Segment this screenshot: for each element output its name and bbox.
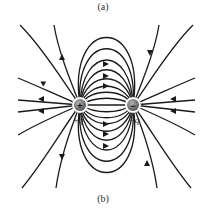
negative-charge: − −q bbox=[125, 97, 141, 125]
field-lines bbox=[18, 25, 195, 188]
caption-b: (b) bbox=[0, 193, 206, 204]
negative-charge-label: −q bbox=[129, 115, 140, 125]
positive-charge: + +q bbox=[72, 97, 88, 125]
negative-symbol: − bbox=[130, 101, 135, 111]
positive-symbol: + bbox=[77, 101, 82, 111]
dipole-field-diagram: + +q − −q bbox=[0, 0, 206, 213]
positive-charge-label: +q bbox=[73, 115, 84, 125]
